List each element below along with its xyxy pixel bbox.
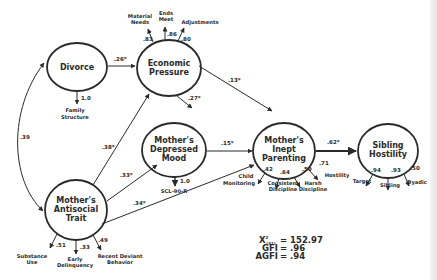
path-coef: .27* bbox=[188, 95, 201, 101]
indicator-material-needs: .83 Material Needs bbox=[128, 13, 153, 42]
loading-value: .51 bbox=[56, 242, 66, 248]
indicator-label: Child bbox=[239, 173, 254, 179]
agfi-value: = .94 bbox=[280, 251, 305, 261]
node-label: Sibling bbox=[372, 141, 403, 150]
node-antisocial-trait: Mother's Antisocial Trait bbox=[45, 180, 107, 240]
indicator-adjustments: .80 Adjustments bbox=[178, 19, 218, 42]
indicator-ends-meet: .86 Ends Meet bbox=[159, 10, 177, 40]
indicator-label: Sibling bbox=[380, 182, 400, 189]
indicator-label: Discipline bbox=[299, 186, 328, 193]
indicator-label: Hostility bbox=[325, 172, 350, 179]
loading-value: .83 bbox=[143, 36, 153, 42]
path-coef: .39 bbox=[20, 134, 30, 140]
loading-value: 1.0 bbox=[180, 178, 190, 184]
path-coef: .34* bbox=[133, 200, 146, 206]
path-coef: .26* bbox=[114, 56, 127, 62]
indicator-label: Structure bbox=[61, 114, 89, 120]
path-coef: .62* bbox=[327, 139, 340, 145]
loading-value: .93 bbox=[391, 167, 401, 173]
page-edge-shadow bbox=[430, 0, 437, 280]
path-economic-to-depressed: .27* bbox=[177, 95, 201, 108]
node-label: Trait bbox=[66, 214, 87, 223]
indicator-scl-90-r: 1.0 SCL-90-R bbox=[161, 177, 190, 194]
indicator-label: Meet bbox=[159, 16, 174, 22]
node-label: Pressure bbox=[149, 68, 189, 77]
indicator-child-monitoring: .42 Child Monitoring bbox=[223, 166, 273, 187]
node-label: Mood bbox=[162, 154, 187, 163]
indicator-hostility: .71 Hostility bbox=[308, 160, 350, 180]
path-parenting-to-sibling: .62* bbox=[316, 139, 356, 151]
path-coef: .38* bbox=[102, 144, 115, 150]
node-label: Antisocial bbox=[54, 205, 99, 214]
loading-value: .64 bbox=[280, 169, 290, 175]
node-economic-pressure: Economic Pressure bbox=[137, 40, 201, 96]
indicator-family-structure: 1.0 Family Structure bbox=[61, 92, 91, 120]
node-label: Divorce bbox=[60, 63, 95, 72]
node-label: Inept bbox=[272, 145, 296, 154]
indicator-harsh-discipline: .59 Harsh Discipline bbox=[294, 166, 328, 193]
indicator-label: Monitoring bbox=[223, 180, 255, 187]
sem-diagram: Divorce Economic Pressure Mother's Depre… bbox=[0, 0, 437, 280]
indicator-label: Behavior bbox=[107, 259, 133, 265]
indicator-dyadic: .50 Dyadic bbox=[404, 165, 427, 186]
path-divorce-to-economic: .26* bbox=[108, 56, 135, 66]
indicator-label: Target bbox=[353, 178, 372, 185]
indicator-label: Delinquency bbox=[57, 262, 94, 269]
loading-value: .33 bbox=[80, 244, 90, 250]
loading-value: .71 bbox=[319, 160, 329, 166]
node-label: Mother's bbox=[56, 196, 96, 205]
indicator-label: SCL-90-R bbox=[161, 188, 187, 194]
indicator-label: Family bbox=[65, 107, 85, 114]
loading-value: .94 bbox=[371, 167, 381, 173]
node-label: Mother's bbox=[264, 136, 304, 145]
loading-value: .86 bbox=[167, 31, 177, 37]
indicator-label: Needs bbox=[131, 19, 149, 25]
node-label: Parenting bbox=[262, 154, 306, 163]
loading-value: .80 bbox=[181, 36, 191, 42]
indicator-substance-use: .51 Substance Use bbox=[17, 234, 66, 265]
correlation-antisocial-divorce: .39 bbox=[18, 63, 44, 211]
node-label: Depressed bbox=[150, 145, 198, 154]
path-depressed-to-parenting: .15* bbox=[207, 140, 252, 151]
node-label: Economic bbox=[148, 59, 191, 68]
node-sibling-hostility: Sibling Hostility bbox=[358, 124, 418, 178]
loading-value: .49 bbox=[98, 237, 108, 243]
indicator-label: Dyadic bbox=[407, 179, 427, 186]
path-coef: .13* bbox=[228, 77, 241, 83]
node-divorce: Divorce bbox=[47, 43, 107, 91]
loading-value: .50 bbox=[410, 165, 420, 171]
path-antisocial-to-depressed: .33* bbox=[107, 165, 157, 201]
agfi-label: AGFI bbox=[255, 251, 278, 261]
path-coef: .15* bbox=[221, 140, 234, 146]
fit-statistics: X2(41) = 152.97 GFI = .96 AGFI = .94 bbox=[255, 235, 322, 261]
node-label: Hostility bbox=[369, 150, 408, 159]
indicator-recent-deviant-behavior: .49 Recent Deviant Behavior bbox=[93, 235, 143, 265]
loading-value: .42 bbox=[263, 166, 273, 172]
path-coef: .33* bbox=[120, 172, 133, 178]
path-economic-to-parenting: .13* bbox=[199, 66, 272, 111]
indicator-label: Use bbox=[27, 259, 38, 265]
node-label: Mother's bbox=[154, 136, 194, 145]
indicator-consistent-discipline: .64 Consistent Discipline bbox=[267, 169, 299, 193]
indicator-label: Discipline bbox=[269, 186, 298, 193]
indicator-label: Adjustments bbox=[182, 19, 219, 26]
loading-value: 1.0 bbox=[81, 95, 91, 101]
